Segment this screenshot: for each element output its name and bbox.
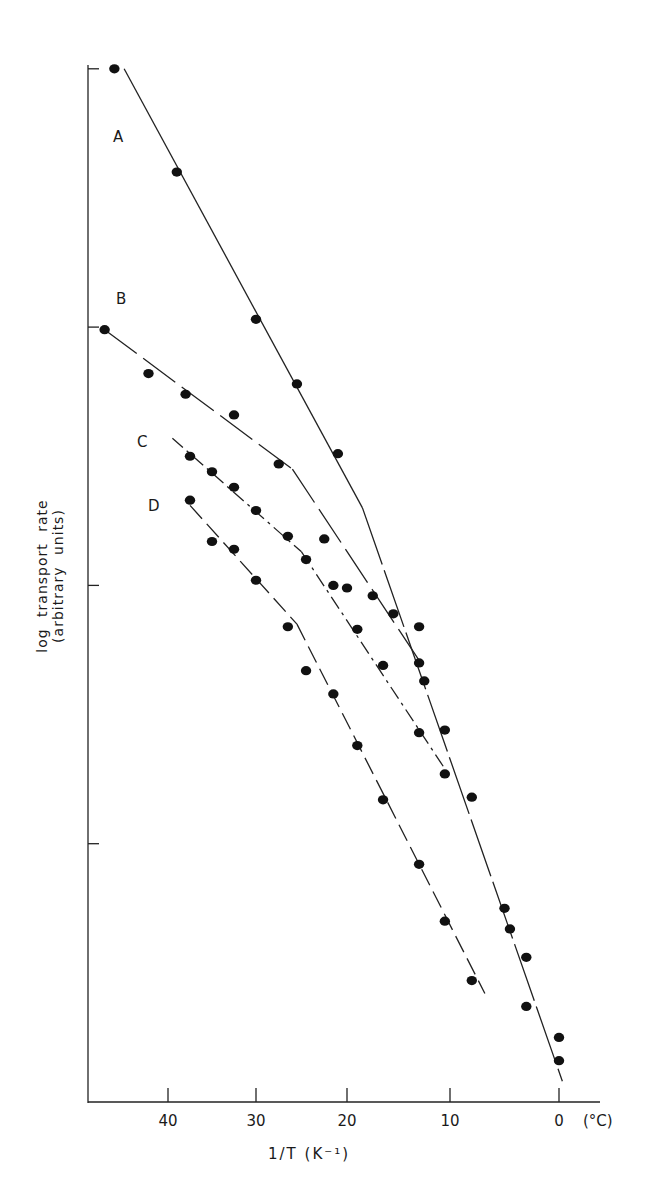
data-point-c [414, 728, 424, 737]
series-label-a: A [113, 128, 123, 146]
data-point-d [440, 917, 450, 926]
data-point-c [440, 769, 450, 778]
x-tick-label-0: 0 [554, 1112, 564, 1130]
data-point-d [185, 496, 195, 505]
x-unit-label: (°C) [583, 1112, 613, 1130]
x-tick-label-20: 20 [337, 1112, 356, 1130]
data-point-d [251, 576, 261, 585]
data-point-d [414, 860, 424, 869]
data-point-d [283, 622, 293, 631]
data-point-a [521, 1002, 531, 1011]
data-point-b [319, 534, 329, 543]
data-point-d [467, 976, 477, 985]
data-points [99, 64, 564, 1065]
data-point-d [229, 545, 239, 554]
series-label-d: D [148, 497, 160, 515]
data-point-b [414, 622, 424, 631]
data-point-a [292, 379, 302, 388]
data-point-b [419, 676, 429, 685]
fit-line-a [124, 69, 362, 508]
data-point-d [352, 741, 362, 750]
data-point-c [352, 625, 362, 634]
data-point-a [467, 793, 477, 802]
series-label-b: B [116, 290, 126, 308]
data-point-b [143, 369, 153, 378]
data-point-c [378, 661, 388, 670]
data-point-b [342, 583, 352, 592]
chart-plot-area [0, 0, 658, 1190]
data-point-c [207, 467, 217, 476]
data-point-a [554, 1033, 564, 1042]
data-point-d [301, 666, 311, 675]
data-point-d [207, 537, 217, 546]
fit-lines [105, 69, 563, 1082]
data-point-a [521, 953, 531, 962]
x-tick-label-10: 10 [440, 1112, 459, 1130]
data-point-d [378, 795, 388, 804]
data-point-b [368, 591, 378, 600]
data-point-d [328, 689, 338, 698]
x-axis-label: 1/T (K⁻¹) [268, 1145, 350, 1163]
data-point-a [505, 924, 515, 933]
fit-line-a [362, 508, 562, 1081]
fit-line-b [105, 330, 293, 469]
data-point-a [172, 168, 182, 177]
data-point-a [499, 904, 509, 913]
data-point-c [283, 532, 293, 541]
data-point-c [328, 581, 338, 590]
y-axis-label: log transport rate (arbitrary units) [34, 456, 66, 696]
data-point-a [554, 1056, 564, 1065]
data-point-a [333, 449, 343, 458]
data-point-a [414, 658, 424, 667]
data-point-a [251, 315, 261, 324]
series-label-c: C [137, 433, 147, 451]
data-point-c [301, 555, 311, 564]
fit-line-d [190, 505, 297, 624]
data-point-b [229, 410, 239, 419]
axes [88, 65, 600, 1103]
data-point-a [440, 725, 450, 734]
data-point-c [229, 483, 239, 492]
x-tick-label-30: 30 [246, 1112, 265, 1130]
data-point-b [180, 390, 190, 399]
data-point-c [251, 506, 261, 515]
data-point-b [274, 459, 284, 468]
data-point-c [185, 452, 195, 461]
data-point-a [109, 64, 119, 73]
fit-line-d [297, 624, 485, 993]
data-point-b [99, 325, 109, 334]
x-tick-label-40: 40 [158, 1112, 177, 1130]
data-point-a [388, 609, 398, 618]
